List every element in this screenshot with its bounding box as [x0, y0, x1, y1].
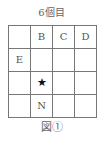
diagram-title: 6個目 [0, 7, 103, 19]
grid-cell [53, 95, 75, 118]
grid-cell: D [75, 26, 97, 49]
grid-cell [9, 26, 31, 49]
grid-cell [75, 72, 97, 95]
grid-row: B C D [9, 26, 97, 49]
grid-row: ★ [9, 72, 97, 95]
grid-cell [31, 49, 53, 72]
grid-cell [75, 49, 97, 72]
grid-cell [9, 72, 31, 95]
grid-cell: E [9, 49, 31, 72]
grid-row: N [9, 95, 97, 118]
grid-cell: C [53, 26, 75, 49]
grid-cell [9, 95, 31, 118]
grid-cell: N [31, 95, 53, 118]
letter-grid: B C D E ★ N [8, 25, 97, 118]
grid-cell [75, 95, 97, 118]
star-icon: ★ [31, 72, 53, 95]
grid-cell [53, 72, 75, 95]
grid-row: E [9, 49, 97, 72]
grid-cell: B [31, 26, 53, 49]
grid-cell [53, 49, 75, 72]
figure-caption: 図① [0, 121, 103, 134]
